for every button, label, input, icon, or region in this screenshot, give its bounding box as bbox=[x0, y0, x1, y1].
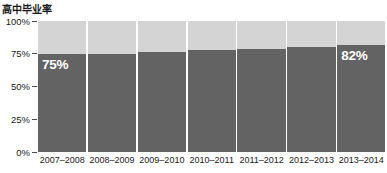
bar-segment-value bbox=[188, 50, 236, 152]
bar-segment-remainder bbox=[287, 21, 335, 47]
bar-column[interactable] bbox=[88, 21, 136, 152]
x-axis-tick-label: 2008–2009 bbox=[88, 155, 136, 165]
x-axis: 2007–20082008–20092009–20102010–20112011… bbox=[38, 152, 387, 173]
bar-value-label: 75% bbox=[42, 57, 68, 72]
bar-segment-remainder bbox=[188, 21, 236, 50]
bar-value-label: 82% bbox=[341, 48, 367, 63]
bar-segment-value bbox=[237, 49, 285, 152]
bar-column[interactable] bbox=[287, 21, 335, 152]
y-axis-tick: 50% bbox=[11, 81, 38, 93]
y-axis-tick-label: 0% bbox=[16, 147, 30, 158]
y-axis-tick-mark bbox=[32, 119, 37, 120]
y-axis-tick-label: 75% bbox=[11, 48, 30, 59]
bar-segment-remainder bbox=[88, 21, 136, 54]
y-axis-tick-label: 25% bbox=[11, 114, 30, 125]
x-axis-tick-label: 2011–2012 bbox=[237, 155, 285, 165]
plot-area: 75%82% bbox=[38, 21, 387, 152]
y-axis-tick: 75% bbox=[11, 48, 38, 60]
x-axis-tick-label: 2009–2010 bbox=[138, 155, 186, 165]
x-axis-tick-label: 2013–2014 bbox=[337, 155, 385, 165]
y-axis-tick-mark bbox=[32, 21, 37, 22]
y-axis-tick: 0% bbox=[16, 146, 38, 158]
x-axis-tick-label: 2012–2013 bbox=[287, 155, 335, 165]
y-axis-tick-label: 100% bbox=[6, 16, 30, 27]
y-axis-tick: 25% bbox=[11, 113, 38, 125]
bar-segment-value: 82% bbox=[337, 45, 385, 152]
x-axis-tick-label: 2007–2008 bbox=[38, 155, 86, 165]
y-axis-tick-label: 50% bbox=[11, 81, 30, 92]
bar-column[interactable] bbox=[237, 21, 285, 152]
bar-column[interactable] bbox=[188, 21, 236, 152]
bar-segment-remainder bbox=[138, 21, 186, 52]
bar-segment-value: 75% bbox=[38, 54, 86, 152]
bar-segment-value bbox=[88, 54, 136, 152]
y-axis-tick-mark bbox=[32, 86, 37, 87]
bar-segment-remainder bbox=[38, 21, 86, 54]
bar-segment-value bbox=[287, 47, 335, 152]
bar-segment-value bbox=[138, 52, 186, 152]
x-axis-tick-label: 2010–2011 bbox=[188, 155, 236, 165]
graduation-rate-chart: 高中毕业率 100%75%50%25%0% 75%82% 2007–200820… bbox=[0, 0, 387, 173]
bar-segment-remainder bbox=[337, 21, 385, 45]
y-axis: 100%75%50%25%0% bbox=[0, 0, 38, 173]
bar-column[interactable] bbox=[138, 21, 186, 152]
bar-column[interactable]: 82% bbox=[337, 21, 385, 152]
bar-segment-remainder bbox=[237, 21, 285, 49]
y-axis-tick-mark bbox=[32, 53, 37, 54]
bar-column[interactable]: 75% bbox=[38, 21, 86, 152]
y-axis-tick: 100% bbox=[6, 15, 38, 27]
y-axis-tick-mark bbox=[32, 152, 37, 153]
